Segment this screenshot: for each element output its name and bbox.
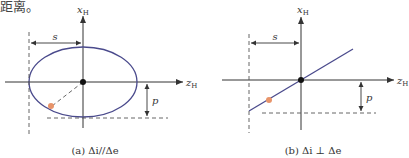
p-label: p (152, 95, 159, 106)
center-point (298, 77, 304, 83)
s-label: s (272, 31, 277, 42)
orange-point (48, 103, 54, 109)
x-axis-label: xH (77, 4, 89, 17)
p-label: p (366, 92, 373, 103)
caption-a: (a) Δi//Δe (71, 145, 118, 156)
caption-b: (b) Δi ⊥ Δe (285, 145, 342, 156)
panel-a: xH zH s p (a) Δi//Δe (5, 4, 197, 156)
diagram-canvas: xH zH s p (a) Δi//Δe xH zH s p (0, 0, 409, 158)
z-axis-label: zH (185, 77, 197, 90)
z-axis-label: zH (396, 75, 408, 88)
center-point (80, 79, 86, 85)
radius-dashed-line (52, 82, 83, 106)
s-label: s (52, 31, 57, 42)
panel-b: xH zH s p (b) Δi ⊥ Δe (222, 4, 408, 156)
orange-point (266, 97, 272, 103)
x-axis-label: xH (297, 4, 309, 17)
